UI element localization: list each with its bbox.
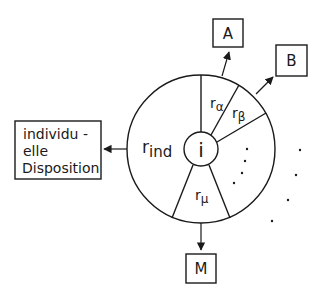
svg-text:elle: elle bbox=[23, 143, 48, 159]
segment-label-alpha: rα bbox=[210, 95, 224, 114]
center-label: i bbox=[198, 138, 204, 162]
ellipsis-inside bbox=[233, 148, 248, 184]
divider-mu-right bbox=[209, 165, 230, 218]
disposition-diagram: i rind rα rβ rμ A B M individu - elle bbox=[0, 0, 325, 305]
svg-text:Disposition: Disposition bbox=[22, 160, 99, 176]
svg-text:B: B bbox=[286, 52, 296, 70]
divider-mu-left bbox=[172, 165, 193, 218]
svg-text:A: A bbox=[223, 25, 234, 43]
box-B: B bbox=[276, 45, 307, 76]
arrow-to-B bbox=[256, 77, 273, 94]
box-individuelle-disposition: individu - elle Disposition bbox=[15, 121, 101, 179]
segment-label-ind: rind bbox=[142, 137, 172, 161]
box-A: A bbox=[213, 19, 243, 47]
box-M: M bbox=[186, 254, 216, 283]
segment-label-beta: rβ bbox=[232, 105, 245, 124]
segment-label-mu: rμ bbox=[195, 187, 209, 206]
svg-text:individu -: individu - bbox=[23, 126, 88, 142]
svg-text:M: M bbox=[195, 260, 208, 278]
arrow-to-A bbox=[222, 52, 229, 76]
ellipsis-outside bbox=[271, 149, 301, 222]
diagram-canvas: i rind rα rβ rμ A B M individu - elle bbox=[0, 0, 325, 305]
